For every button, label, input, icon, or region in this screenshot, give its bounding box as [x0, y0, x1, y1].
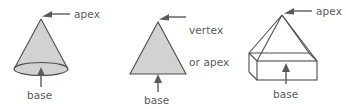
triangle-apex-arrow-head [159, 14, 169, 21]
figure-triangle: vertex or apex base [110, 0, 228, 109]
triangle-base-label: base [144, 95, 169, 106]
pyramid-base-arrow-head [282, 63, 290, 72]
cone-apex-label: apex [74, 9, 100, 20]
triangle-apex-label-line1: vertex [189, 25, 229, 36]
triangle-apex-label-line2: or apex [189, 57, 229, 68]
pyramid-edge-back-right [282, 15, 309, 53]
pyramid-base-label: base [273, 89, 298, 100]
geometry-figure-panel: apex base vertex or apex base [0, 0, 346, 109]
cone-body-fill [14, 19, 68, 69]
triangle-apex-label: vertex or apex [189, 4, 229, 88]
prism-left-perspective-edge [249, 53, 257, 61]
figure-cone: apex base [0, 0, 115, 109]
pyramid-apex-label: apex [316, 6, 342, 17]
cone-apex-arrow-head [42, 11, 52, 18]
prism-back-left-bottom-edge [249, 72, 257, 80]
pyramid-apex-arrow-head [284, 8, 294, 15]
pyramid-edge-back-left [249, 15, 282, 53]
triangle-base-arrow-head [154, 74, 162, 83]
cone-base-label: base [27, 90, 52, 101]
figure-pyramid: apex base [228, 0, 346, 109]
pyramid-edge-front-left [257, 15, 282, 61]
triangle-shape [130, 22, 186, 74]
